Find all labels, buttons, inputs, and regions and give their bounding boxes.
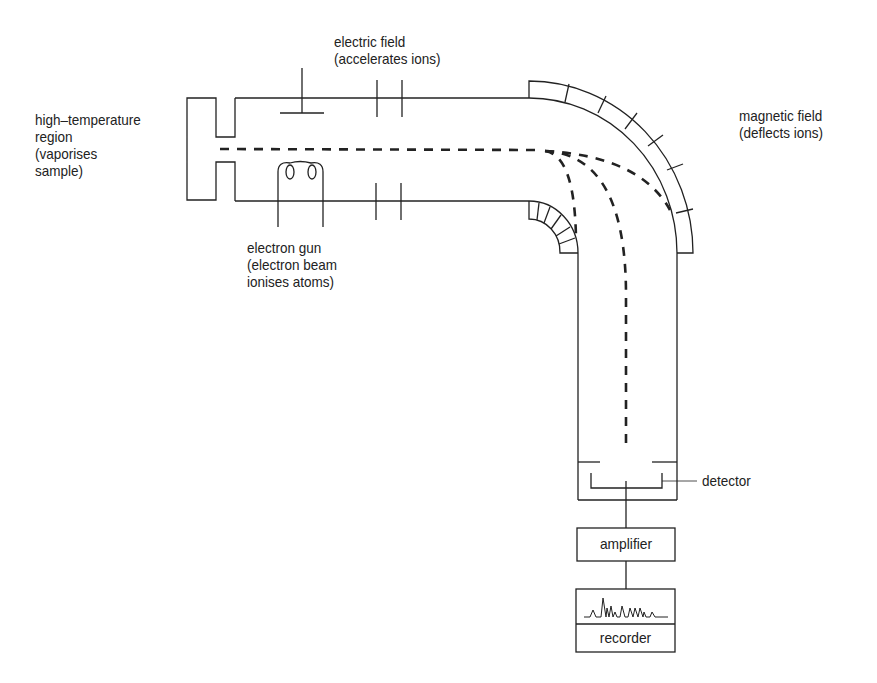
electron-gun	[278, 162, 323, 228]
label-electron-gun: electron gun (electron beam ionises atom…	[247, 239, 337, 290]
label-amplifier: amplifier	[581, 535, 671, 552]
outer-magnet	[529, 81, 693, 253]
label-detector: detector	[702, 472, 751, 489]
inner-magnet	[529, 201, 578, 253]
diagram-drawing	[0, 0, 877, 683]
label-high-temperature-region: high–temperature region (vaporises sampl…	[35, 111, 141, 179]
tube-outer-curve	[529, 98, 677, 500]
mass-spectrometer-diagram: high–temperature region (vaporises sampl…	[0, 0, 877, 683]
label-magnetic-field: magnetic field (deflects ions)	[739, 107, 823, 141]
label-recorder: recorder	[580, 629, 671, 646]
tube-inner-curve	[529, 201, 578, 500]
ion-beam-paths	[220, 149, 670, 450]
detector	[578, 462, 697, 488]
label-electric-field: electric field (accelerates ions)	[334, 33, 441, 67]
spectrum-trace	[584, 598, 668, 617]
electric-field-plates	[280, 68, 402, 220]
